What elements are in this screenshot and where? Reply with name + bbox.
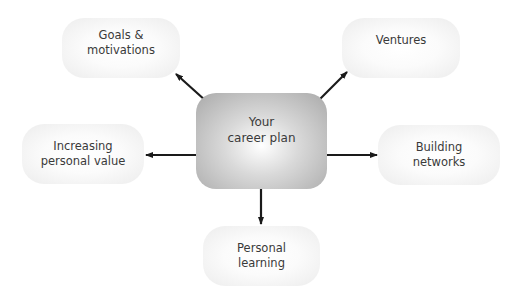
node-increasing-personal-value: Increasing personal value [22,124,144,184]
node-label: Increasing personal value [41,139,126,169]
node-goals-motivations: Goals & motivations [62,18,180,78]
node-label: Goals & motivations [87,28,155,58]
arrow-to-goals [176,74,206,101]
center-node-label: Your career plan [227,114,295,146]
node-building-networks: Building networks [378,125,500,185]
node-label: Building networks [413,140,466,170]
node-personal-learning: Personal learning [203,226,320,286]
arrow-to-ventures [318,72,347,101]
node-label: Ventures [376,33,427,48]
center-node-career-plan: Your career plan [196,93,327,189]
node-ventures: Ventures [342,18,460,78]
node-label: Personal learning [237,241,286,271]
